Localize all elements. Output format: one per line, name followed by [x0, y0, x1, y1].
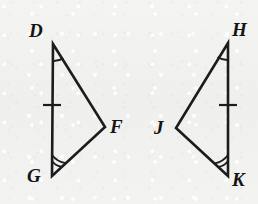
triangle-HJK	[176, 43, 237, 176]
vertex-label-J: J	[154, 118, 164, 137]
vertex-label-G: G	[27, 166, 41, 185]
angle-arc-D-single	[53, 58, 63, 61]
triangle-DFG	[43, 44, 105, 176]
vertex-label-F: F	[110, 117, 123, 136]
vertex-label-K: K	[232, 170, 245, 189]
triangle-DFG-outline	[52, 44, 105, 176]
triangle-HJK-outline	[176, 43, 228, 176]
angle-arc-G-outer	[52, 155, 66, 163]
vertex-label-H: H	[232, 20, 247, 39]
geometry-figure: D F G H J K	[0, 0, 258, 204]
vertex-label-D: D	[29, 21, 43, 40]
